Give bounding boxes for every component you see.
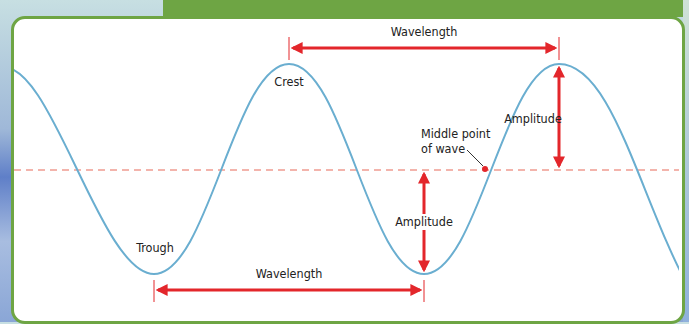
- amplitude-middle-label: Amplitude: [395, 214, 453, 229]
- wave-curve: [0, 64, 689, 290]
- trough-label: Trough: [135, 240, 174, 255]
- middle-point-leader: [467, 150, 483, 166]
- wavelength-bottom-label: Wavelength: [256, 266, 323, 281]
- amplitude-right-label: Amplitude: [504, 111, 562, 126]
- wavelength-top-label: Wavelength: [391, 24, 458, 39]
- middle-point-label-line1: Middle point: [421, 126, 491, 141]
- middle-point-label-line2: of wave: [421, 141, 465, 156]
- crest-label: Crest: [274, 74, 304, 89]
- middle-point-dot: [482, 166, 488, 172]
